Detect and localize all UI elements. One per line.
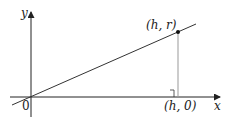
- line-y-equals-r-over-h-x: [12, 24, 196, 105]
- x-axis-label: x: [214, 99, 221, 113]
- point-label: (h, r): [146, 18, 177, 32]
- origin-label: 0: [22, 99, 30, 113]
- right-angle-marker: [170, 90, 174, 97]
- point-h-r: [176, 30, 180, 34]
- y-axis-label: y: [20, 6, 28, 20]
- foot-label: (h, 0): [164, 99, 197, 113]
- cone-generating-line-diagram: y x 0 (h, r) (h, 0): [0, 0, 234, 124]
